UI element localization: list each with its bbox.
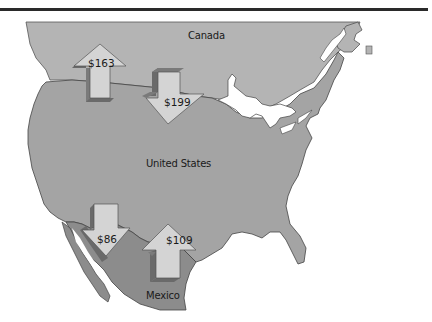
flow-value-mexico-to-us: $109 xyxy=(166,234,193,246)
label-canada: Canada xyxy=(188,30,225,41)
north-america-map xyxy=(0,0,432,322)
flow-value-canada-to-us: $199 xyxy=(164,96,191,108)
flow-value-us-to-mexico: $86 xyxy=(97,233,117,245)
label-mexico: Mexico xyxy=(146,290,180,301)
flow-value-us-to-canada: $163 xyxy=(88,57,115,69)
label-united-states: United States xyxy=(146,158,211,169)
